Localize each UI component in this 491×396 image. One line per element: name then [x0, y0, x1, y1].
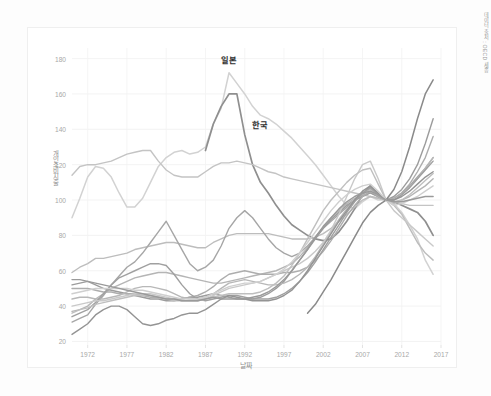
x-axis-tick-label: 1997	[277, 351, 292, 358]
x-axis-tick-label: 1972	[80, 351, 95, 358]
x-axis-tick-label: 2017	[434, 351, 449, 358]
source-note: 데이터 출처 : OECD 세종	[482, 12, 487, 72]
series-line	[72, 191, 433, 301]
x-axis-tick-label: 1977	[120, 351, 135, 358]
series-annotation-한국: 한국	[252, 118, 268, 130]
y-axis-tick-label: 180	[40, 55, 66, 62]
series-line	[72, 168, 433, 313]
x-axis-title: 날짜	[0, 360, 491, 370]
x-axis-tick-label: 1987	[198, 351, 213, 358]
y-axis-tick-label: 80	[40, 232, 66, 239]
y-axis-tick-label: 20	[40, 338, 66, 345]
y-axis-tick-label: 60	[40, 267, 66, 274]
series-line	[72, 119, 433, 301]
y-axis-tick-label: 140	[40, 126, 66, 133]
y-axis-tick-label: 40	[40, 303, 66, 310]
x-axis-tick-label: 1982	[159, 351, 174, 358]
x-axis-tick-label: 2002	[316, 351, 331, 358]
series-line	[72, 73, 433, 275]
series-line	[72, 197, 433, 273]
series-annotation-일본: 일본	[221, 53, 237, 65]
series-line	[72, 158, 433, 299]
x-axis-tick-label: 2007	[355, 351, 370, 358]
series-layer	[72, 73, 433, 335]
x-axis-tick-label: 1992	[237, 351, 252, 358]
line-chart-figure	[0, 0, 491, 396]
chart-screenshot: 20406080100120140160180 1972197719821987…	[0, 0, 491, 396]
y-axis-tick-label: 160	[40, 90, 66, 97]
y-axis-title: 개인소비지출	[52, 150, 59, 184]
y-axis-tick-label: 100	[40, 197, 66, 204]
x-axis-tick-label: 2012	[394, 351, 409, 358]
